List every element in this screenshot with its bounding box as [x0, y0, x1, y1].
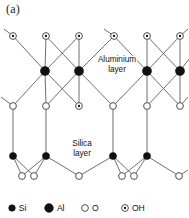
atom-oh — [76, 33, 83, 40]
aluminium-layer-label-line2: layer — [108, 65, 126, 74]
legend-group: SiAlOOH — [9, 203, 145, 213]
atom-si — [143, 152, 150, 159]
oh-center-dot — [45, 35, 47, 37]
o-marker-icon — [82, 205, 89, 212]
oh-center-dot — [179, 35, 181, 37]
bond-line — [13, 36, 45, 71]
aluminium-layer-label-line1: Aluminium — [98, 55, 136, 64]
atom-oh — [10, 33, 17, 40]
silica-layer-label-line2: layer — [73, 149, 91, 158]
atom-o — [110, 103, 117, 110]
oh-center-dot — [113, 35, 115, 37]
atom-si — [42, 152, 49, 159]
atom-o — [10, 103, 17, 110]
atom-oh — [76, 103, 83, 110]
legend-label-o: O — [92, 203, 99, 213]
atom-o — [19, 173, 26, 180]
atom-oh — [43, 33, 50, 40]
atom-oh — [177, 33, 184, 40]
atom-oh — [111, 33, 118, 40]
bond-line — [147, 156, 179, 176]
bond-line — [45, 71, 46, 106]
legend-item-si: Si — [9, 203, 27, 213]
clay-structure-diagram: AluminiumAluminiumlayerlayerSilicaSilica… — [0, 0, 189, 218]
atom-al — [142, 66, 151, 75]
bond-line — [79, 156, 113, 176]
legend-item-al: Al — [45, 203, 65, 213]
atom-al — [175, 66, 184, 75]
oh-center-dot — [12, 35, 14, 37]
oh-center-dot — [146, 35, 148, 37]
legend-label-oh: OH — [132, 203, 145, 213]
al-marker-icon — [45, 204, 54, 213]
bond-line — [79, 71, 113, 106]
atom-al — [74, 66, 83, 75]
silica-layer-label-line1: Silica — [72, 139, 92, 148]
bond-line — [113, 71, 147, 106]
oh-center-dot — [124, 207, 126, 209]
legend-item-oh: OH — [122, 203, 145, 213]
oh-center-dot — [78, 35, 80, 37]
atom-o — [43, 103, 50, 110]
atom-o — [144, 103, 151, 110]
atom-si — [9, 152, 16, 159]
bonds-group — [13, 36, 180, 176]
atom-si — [109, 152, 116, 159]
atom-o — [131, 173, 138, 180]
figure-panel-a: (a) AluminiumAluminiumlayerlayerSilicaSi… — [0, 0, 189, 218]
atom-o — [177, 103, 184, 110]
bond-line — [45, 36, 46, 71]
atom-o — [76, 173, 83, 180]
atom-o — [176, 173, 183, 180]
si-marker-icon — [9, 205, 16, 212]
atom-oh — [144, 33, 151, 40]
atom-al — [40, 66, 49, 75]
atom-o — [119, 173, 126, 180]
bond-line — [46, 156, 79, 176]
legend-item-o: O — [82, 203, 99, 213]
bond-line — [13, 71, 45, 106]
legend-label-si: Si — [19, 203, 27, 213]
legend-label-al: Al — [57, 203, 65, 213]
oh-center-dot — [78, 105, 80, 107]
atom-o — [31, 173, 38, 180]
